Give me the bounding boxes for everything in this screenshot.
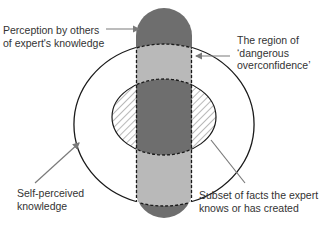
self-perceived-label-line1: Self-perceived — [17, 187, 84, 200]
subset-label: Subset of facts the expert knows or has … — [199, 189, 318, 214]
self-perceived-arrow — [35, 143, 79, 183]
subset-pointer-line — [211, 140, 245, 183]
subset-label-line1: Subset of facts the expert — [199, 189, 318, 202]
perception-label: Perception by others of expert's knowled… — [3, 24, 104, 49]
overconfidence-label-line3: overconfidence’ — [237, 59, 311, 72]
subset-label-line2: knows or has created — [199, 202, 318, 215]
perception-label-line1: Perception by others — [3, 24, 104, 37]
perception-label-line2: of expert's knowledge — [3, 37, 104, 50]
self-perceived-label: Self-perceived knowledge — [17, 187, 84, 212]
overconfidence-label-line2: ‘dangerous — [237, 47, 311, 60]
overconfidence-label: The region of ‘dangerous overconfidence’ — [237, 34, 311, 72]
overconfidence-label-line1: The region of — [237, 34, 311, 47]
self-perceived-label-line2: knowledge — [17, 200, 84, 213]
